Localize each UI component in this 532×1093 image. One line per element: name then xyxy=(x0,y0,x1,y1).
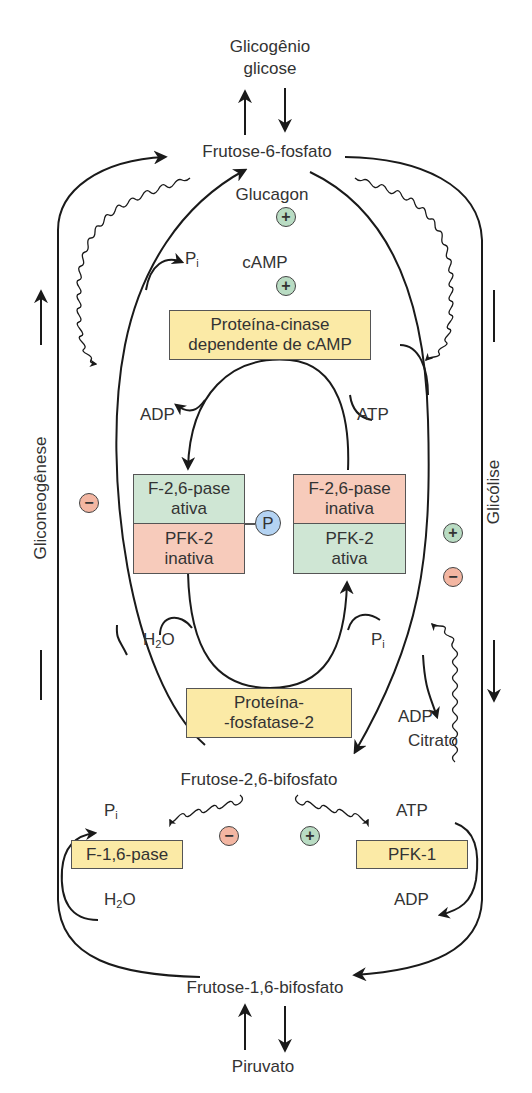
glycogen-label: Glicogênio xyxy=(230,38,310,55)
atp-lower-right-label: ATP xyxy=(396,802,428,819)
pfk1-box: PFK-1 xyxy=(356,840,468,869)
right-pfk2-active-box: PFK-2 ativa xyxy=(293,523,406,574)
activation-badge-glucagon: + xyxy=(276,207,296,227)
fructose-1-6-bisphosphatase-box: F-1,6-pase xyxy=(71,840,183,869)
inhibition-badge-f16pase: − xyxy=(219,826,239,846)
gluconeogenesis-label: Gliconeogênese xyxy=(31,437,51,560)
pi-mid-right-label: Pi xyxy=(371,631,385,650)
protein-phosphatase-2-box: Proteína- -fosfatase-2 xyxy=(186,688,352,738)
pi-lower-left-label: Pi xyxy=(104,802,118,821)
phosphate-badge: P xyxy=(255,510,281,536)
left-pfk2-inactive-box: PFK-2 inativa xyxy=(133,523,245,574)
pka-line1: Proteína-cinase xyxy=(210,315,329,335)
glucagon-label: Glucagon xyxy=(236,186,309,203)
fructose-6-phosphate-label: Frutose-6-fosfato xyxy=(202,143,331,160)
left-f26pase-active-box: F-2,6-pase ativa xyxy=(133,474,245,524)
activation-badge-camp: + xyxy=(276,276,296,296)
pathway-arrows xyxy=(0,0,532,1093)
atp-upper-right-label: ATP xyxy=(357,406,389,423)
h2o-lower-left-label: H2O xyxy=(104,891,136,910)
activation-badge-right: + xyxy=(443,523,463,543)
inhibition-badge-left: − xyxy=(79,493,99,513)
activation-badge-pfk1: + xyxy=(300,826,320,846)
pi-upper-left-label: Pi xyxy=(185,250,199,269)
citrate-label: Citrato xyxy=(408,732,458,749)
fructose-1-6-bisphosphate-label: Frutose-1,6-bifosfato xyxy=(187,979,344,996)
inhibition-badge-right: − xyxy=(443,567,463,587)
h2o-mid-left-label: H2O xyxy=(143,631,175,650)
diagram-canvas: Glicogênio glicose Frutose-6-fosfato Glu… xyxy=(0,0,532,1093)
adp-upper-left-label: ADP xyxy=(140,406,175,423)
glycolysis-label: Glicólise xyxy=(484,460,504,524)
adp-lower-right-label: ADP xyxy=(394,891,429,908)
protein-kinase-a-box: Proteína-cinase dependente de cAMP xyxy=(169,310,371,360)
pyruvate-label: Piruvato xyxy=(232,1058,294,1075)
pka-line2: dependente de cAMP xyxy=(188,335,352,355)
camp-label: cAMP xyxy=(242,254,287,271)
right-f26pase-inactive-box: F-2,6-pase inativa xyxy=(293,474,406,524)
fructose-2-6-bisphosphate-label: Frutose-2,6-bifosfato xyxy=(181,771,338,788)
phospho-connector xyxy=(245,523,255,525)
adp-mid-right-label: ADP xyxy=(398,708,433,725)
glucose-label: glicose xyxy=(244,60,297,77)
